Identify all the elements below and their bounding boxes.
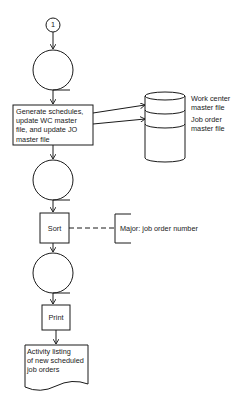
process-line: file, and update JO [16, 125, 94, 134]
sort-annotation-label: Major: job order number [120, 224, 198, 233]
work-center-file-label: Work center master file [191, 94, 230, 112]
print-label: Print [42, 313, 70, 322]
sort-label: Sort [40, 224, 69, 233]
job-order-file-label: Job order master file [191, 115, 225, 133]
file-label-line: Work center [191, 94, 230, 103]
connector-label: 1 [46, 20, 60, 29]
doc-line: Activity listing [27, 347, 89, 356]
flowchart-canvas [0, 0, 246, 407]
data-circle-3 [33, 253, 73, 293]
file-label-line: Job order [191, 115, 225, 124]
output-document-label: Activity listing of new scheduled job or… [27, 347, 89, 375]
data-circle-1 [33, 50, 73, 90]
file-label-line: master file [191, 124, 225, 133]
process-line: Generate schedules, [16, 107, 94, 116]
data-circle-2 [33, 160, 73, 200]
process-update-label: Generate schedules, update WC master fil… [16, 107, 94, 144]
doc-line: job orders [27, 365, 89, 374]
process-line: master file [16, 135, 94, 144]
doc-line: of new scheduled [27, 356, 89, 365]
process-line: update WC master [16, 116, 94, 125]
file-label-line: master file [191, 103, 230, 112]
master-file-storage [145, 92, 185, 162]
